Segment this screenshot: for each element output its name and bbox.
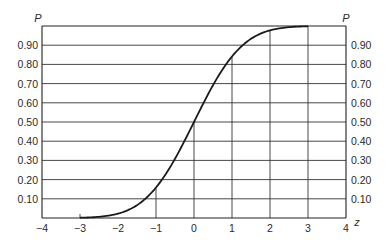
y-tick-label-right: 0.10 [351,193,372,205]
x-tick-label: −1 [150,222,162,234]
y-tick-label-right: 0.30 [351,154,372,166]
y-tick-label-left: 0.40 [18,135,39,147]
x-axis-label: z [353,216,360,228]
y-tick-label-right: 0.50 [351,116,372,128]
y-tick-label-right: 0.70 [351,78,372,90]
y-tick-label-right: 0.90 [351,39,372,51]
y-tick-label-left: 0.90 [18,39,39,51]
y-tick-label-right: 0.80 [351,58,372,70]
x-tick-label: −2 [112,222,124,234]
x-tick-label: 3 [305,222,311,234]
x-tick-label: −4 [36,222,48,234]
x-tick-label: 0 [191,222,197,234]
y-tick-label-right: 0.60 [351,97,372,109]
x-tick-label: 2 [267,222,273,234]
x-tick-label: −3 [74,222,86,234]
y-axis-label-left: P [34,12,42,24]
y-axis-label-right: P [342,12,350,24]
y-tick-label-left: 0.80 [18,58,39,70]
x-tick-label: 4 [343,222,349,234]
y-tick-label-left: 0.50 [18,116,39,128]
cumulative-normal-chart: 0.100.200.300.400.500.600.700.800.900.10… [0,0,387,243]
y-tick-label-left: 0.70 [18,78,39,90]
y-tick-label-left: 0.10 [18,193,39,205]
x-tick-label: 1 [229,222,235,234]
y-tick-label-left: 0.60 [18,97,39,109]
y-tick-label-left: 0.30 [18,154,39,166]
y-tick-label-left: 0.20 [18,174,39,186]
y-tick-label-right: 0.20 [351,174,372,186]
y-tick-label-right: 0.40 [351,135,372,147]
